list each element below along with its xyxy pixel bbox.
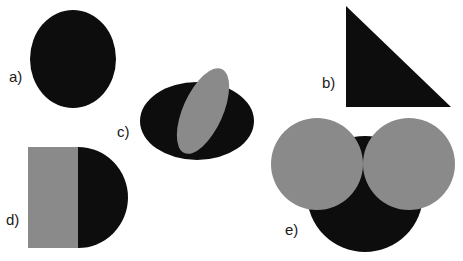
label-a: a) [9,68,22,85]
shapes-diagram: a) b) c) d) e) [0,0,463,261]
gray-circle-left [271,118,363,210]
black-half-disc [78,147,128,248]
figure-d: d) [6,147,128,248]
figure-c: c) [117,61,254,161]
black-ellipse [30,10,116,108]
figure-b: b) [322,6,451,107]
black-triangle [346,6,451,107]
gray-circle-right [363,118,455,210]
figure-a: a) [9,10,116,108]
label-d: d) [6,211,19,228]
label-c: c) [117,123,130,140]
label-e: e) [285,221,298,238]
label-b: b) [322,74,335,91]
figure-e: e) [271,118,455,252]
gray-rectangle [28,147,78,248]
